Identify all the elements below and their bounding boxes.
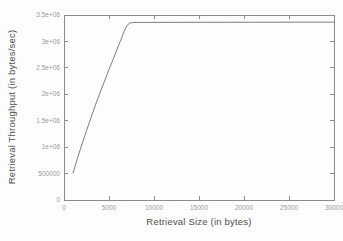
x-tick-label: 20000 [235,204,253,211]
data-line-retrieval-throughput [73,22,334,173]
y-tick-label: 2.5e+06 [36,64,60,71]
y-tick-label: 2e+06 [42,90,61,97]
y-axis-title: Retrieval Throughput (in bytes/sec) [6,30,17,185]
x-tick-label: 30000 [325,204,343,211]
x-tick-label: 5000 [102,204,117,211]
y-tick-label: 3.5e+06 [36,11,60,18]
y-tick-label: 1.5e+06 [36,117,60,124]
x-tick-label: 0 [62,204,66,211]
y-tick-label: 0 [56,196,60,203]
x-tick-label: 25000 [280,204,298,211]
y-tick-label: 1e+06 [42,143,61,150]
x-axis-title: Retrieval Size (in bytes) [64,216,334,227]
x-tick-label: 15000 [190,204,208,211]
plot-frame [64,15,334,200]
chart-container: 05000100001500020000250003000005000001e+… [0,0,343,241]
x-tick-label: 10000 [145,204,163,211]
y-tick-label: 500000 [38,170,60,177]
y-tick-label: 3e+06 [42,38,61,45]
plot-area: 05000100001500020000250003000005000001e+… [0,0,343,241]
